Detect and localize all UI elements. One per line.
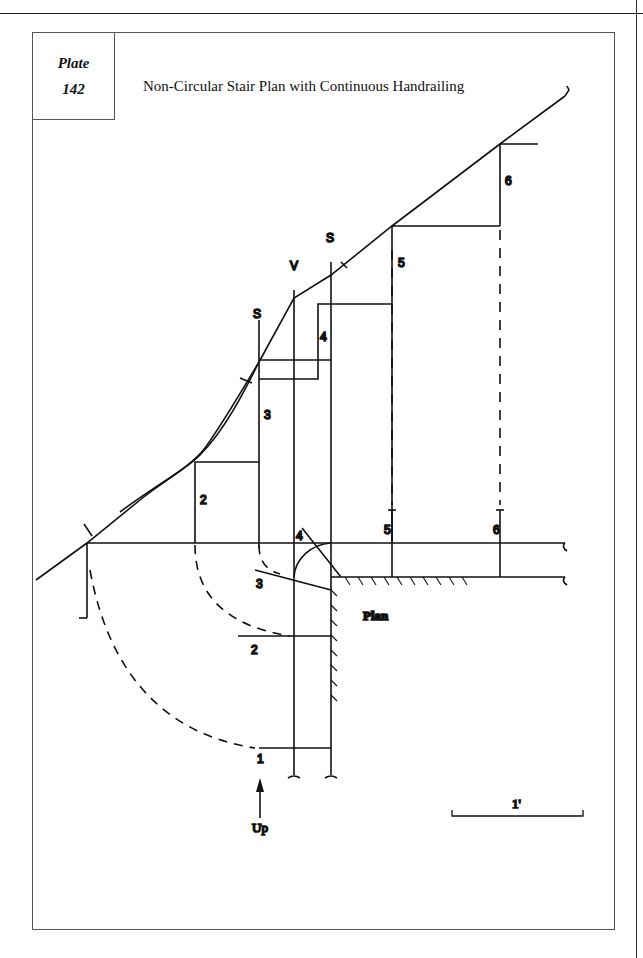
elevation-step-3: 3 xyxy=(264,408,271,422)
elevation-risers xyxy=(195,144,538,544)
up-label: Up xyxy=(252,820,268,835)
plan-step-6: 6 xyxy=(493,523,500,537)
handrail-pitch-line xyxy=(36,86,569,580)
plan-label: Plan xyxy=(363,608,389,623)
plan-view xyxy=(79,510,567,748)
projection-lines xyxy=(392,230,500,505)
vertical-line-label: V xyxy=(290,259,298,273)
elevation-step-2: 2 xyxy=(200,493,207,507)
spring-line-label-left: S xyxy=(253,307,261,321)
scale-label: 1' xyxy=(512,796,521,811)
spring-line-label-right: S xyxy=(326,231,334,245)
plan-step-4: 4 xyxy=(296,529,303,543)
plan-step-3: 3 xyxy=(256,577,263,591)
plan-step-1: 1 xyxy=(257,752,264,766)
plan-step-5: 5 xyxy=(384,523,391,537)
up-arrow-icon xyxy=(256,778,264,818)
stair-drawing: S V S 2 3 4 5 6 1 2 3 4 5 6 Plan Up 1' xyxy=(0,0,643,958)
elevation-step-4: 4 xyxy=(320,330,327,344)
elevation-step-5: 5 xyxy=(398,256,405,270)
elevation-step-6: 6 xyxy=(505,174,512,188)
plan-step-2: 2 xyxy=(251,643,258,657)
